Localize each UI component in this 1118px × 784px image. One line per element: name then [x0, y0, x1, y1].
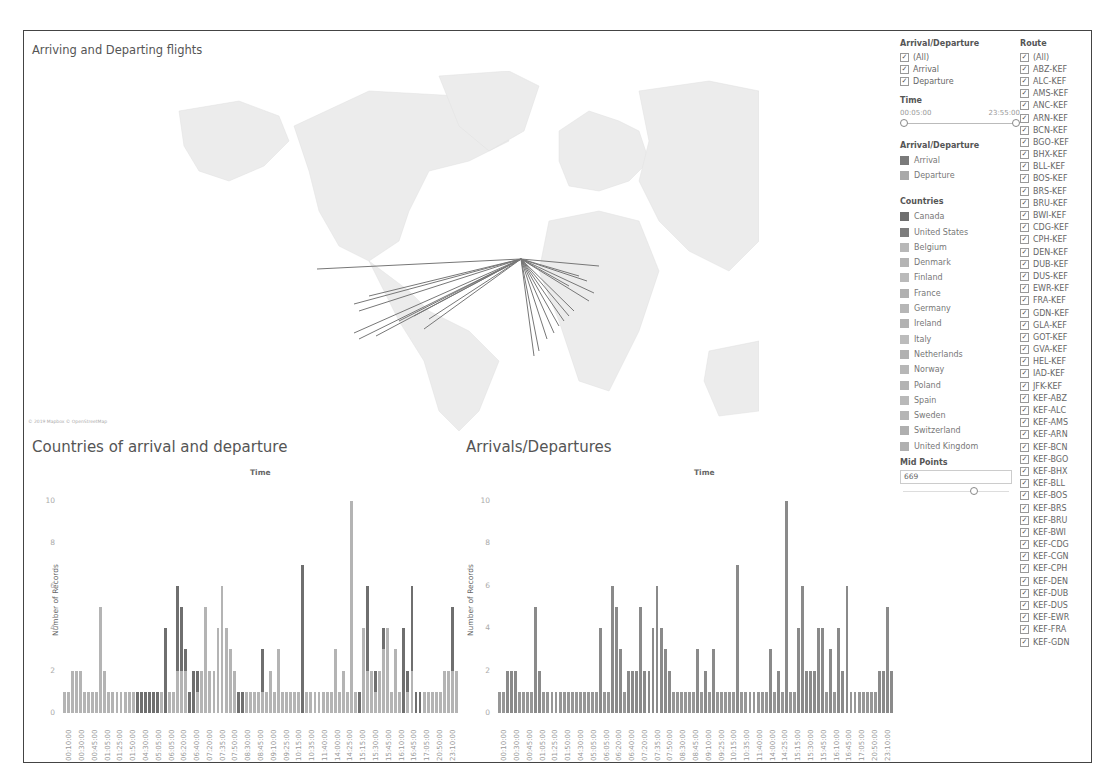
bar[interactable] — [886, 607, 889, 713]
route-option[interactable]: ✓BOS-KEF — [1020, 173, 1100, 185]
checkbox-checked-icon[interactable]: ✓ — [1020, 528, 1029, 537]
bar-segment[interactable] — [334, 649, 337, 713]
bar[interactable] — [862, 692, 865, 713]
bar-segment[interactable] — [75, 671, 78, 713]
bar[interactable] — [757, 692, 760, 713]
bar-segment[interactable] — [221, 586, 224, 713]
checkbox-checked-icon[interactable]: ✓ — [1020, 199, 1029, 208]
checkbox-checked-icon[interactable]: ✓ — [900, 65, 909, 74]
checkbox-checked-icon[interactable]: ✓ — [1020, 138, 1029, 147]
checkbox-checked-icon[interactable]: ✓ — [1020, 382, 1029, 391]
checkbox-checked-icon[interactable]: ✓ — [1020, 150, 1029, 159]
bar-segment[interactable] — [164, 628, 167, 713]
checkbox-checked-icon[interactable]: ✓ — [1020, 321, 1029, 330]
bar-segment[interactable] — [411, 586, 414, 671]
checkbox-checked-icon[interactable]: ✓ — [1020, 174, 1029, 183]
country-legend-item[interactable]: Italy — [900, 332, 1020, 347]
checkbox-checked-icon[interactable]: ✓ — [1020, 589, 1029, 598]
arrival-departure-option[interactable]: ✓Departure — [900, 75, 1020, 87]
checkbox-checked-icon[interactable]: ✓ — [1020, 345, 1029, 354]
bar[interactable] — [684, 692, 687, 713]
route-option[interactable]: ✓KEF-BCN — [1020, 441, 1100, 453]
bar-segment[interactable] — [427, 692, 430, 713]
bar[interactable] — [854, 692, 857, 713]
bar[interactable] — [538, 671, 541, 713]
bar[interactable] — [866, 692, 869, 713]
checkbox-checked-icon[interactable]: ✓ — [1020, 516, 1029, 525]
route-option[interactable]: ✓KEF-BOS — [1020, 490, 1100, 502]
checkbox-checked-icon[interactable]: ✓ — [900, 53, 909, 62]
bar[interactable] — [777, 671, 780, 713]
bar-segment[interactable] — [63, 692, 66, 713]
bar-segment[interactable] — [318, 692, 321, 713]
bar-segment[interactable] — [374, 671, 377, 692]
country-legend-item[interactable]: Finland — [900, 270, 1020, 285]
bar[interactable] — [615, 607, 618, 713]
bar[interactable] — [878, 671, 881, 713]
bar-segment[interactable] — [297, 692, 300, 713]
checkbox-checked-icon[interactable]: ✓ — [1020, 564, 1029, 573]
bar-segment[interactable] — [95, 692, 98, 713]
bar-segment[interactable] — [184, 671, 187, 713]
bar-segment[interactable] — [358, 692, 361, 713]
bar[interactable] — [591, 692, 594, 713]
bar-segment[interactable] — [124, 692, 127, 713]
bar[interactable] — [502, 692, 505, 713]
bar-segment[interactable] — [285, 692, 288, 713]
time-slider-min-handle[interactable] — [900, 119, 908, 127]
route-option[interactable]: ✓KEF-GDN — [1020, 636, 1100, 648]
bar[interactable] — [603, 692, 606, 713]
checkbox-checked-icon[interactable]: ✓ — [1020, 430, 1029, 439]
bar-segment[interactable] — [160, 692, 163, 713]
route-option[interactable]: ✓AMS-KEF — [1020, 88, 1100, 100]
bar-segment[interactable] — [265, 692, 268, 713]
bar[interactable] — [595, 692, 598, 713]
route-option[interactable]: ✓KEF-CDG — [1020, 539, 1100, 551]
chart1-bars[interactable] — [63, 501, 459, 713]
checkbox-checked-icon[interactable]: ✓ — [1020, 309, 1029, 318]
route-option[interactable]: ✓ABZ-KEF — [1020, 63, 1100, 75]
route-option[interactable]: ✓KEF-BLL — [1020, 478, 1100, 490]
bar-segment[interactable] — [156, 692, 159, 713]
route-option[interactable]: ✓GOT-KEF — [1020, 331, 1100, 343]
bar[interactable] — [599, 628, 602, 713]
bar-segment[interactable] — [305, 692, 308, 713]
bar-segment[interactable] — [176, 586, 179, 671]
route-option[interactable]: ✓KEF-BHX — [1020, 465, 1100, 477]
checkbox-checked-icon[interactable]: ✓ — [1020, 613, 1029, 622]
bar[interactable] — [785, 501, 788, 713]
bar-segment[interactable] — [208, 671, 211, 713]
bar-segment[interactable] — [196, 692, 199, 713]
route-option[interactable]: ✓ANC-KEF — [1020, 100, 1100, 112]
bar[interactable] — [850, 692, 853, 713]
bar-segment[interactable] — [411, 671, 414, 713]
country-legend-item[interactable]: Canada — [900, 209, 1020, 224]
bar[interactable] — [672, 692, 675, 713]
country-legend-item[interactable]: Norway — [900, 362, 1020, 377]
bar-segment[interactable] — [273, 692, 276, 713]
bar[interactable] — [833, 692, 836, 713]
route-option[interactable]: ✓BWI-KEF — [1020, 209, 1100, 221]
route-option[interactable]: ✓KEF-CGN — [1020, 551, 1100, 563]
route-option[interactable]: ✓JFK-KEF — [1020, 380, 1100, 392]
country-legend-item[interactable]: Poland — [900, 377, 1020, 392]
bar[interactable] — [639, 607, 642, 713]
arrival-departure-option[interactable]: ✓Arrival — [900, 63, 1020, 75]
bar[interactable] — [559, 692, 562, 713]
arrival-departure-option[interactable]: ✓(All) — [900, 51, 1020, 63]
bar-segment[interactable] — [79, 671, 82, 713]
route-option[interactable]: ✓HEL-KEF — [1020, 356, 1100, 368]
checkbox-checked-icon[interactable]: ✓ — [1020, 223, 1029, 232]
bar[interactable] — [611, 586, 614, 713]
checkbox-checked-icon[interactable]: ✓ — [1020, 443, 1029, 452]
bar-segment[interactable] — [261, 649, 264, 691]
bar-segment[interactable] — [370, 671, 373, 713]
country-legend-item[interactable]: Denmark — [900, 255, 1020, 270]
bar[interactable] — [712, 649, 715, 713]
bar[interactable] — [740, 692, 743, 713]
arrival-departure-legend-item[interactable]: Arrival — [900, 153, 1020, 168]
checkbox-checked-icon[interactable]: ✓ — [1020, 601, 1029, 610]
bar[interactable] — [793, 692, 796, 713]
bar-segment[interactable] — [172, 692, 175, 713]
bar[interactable] — [761, 692, 764, 713]
